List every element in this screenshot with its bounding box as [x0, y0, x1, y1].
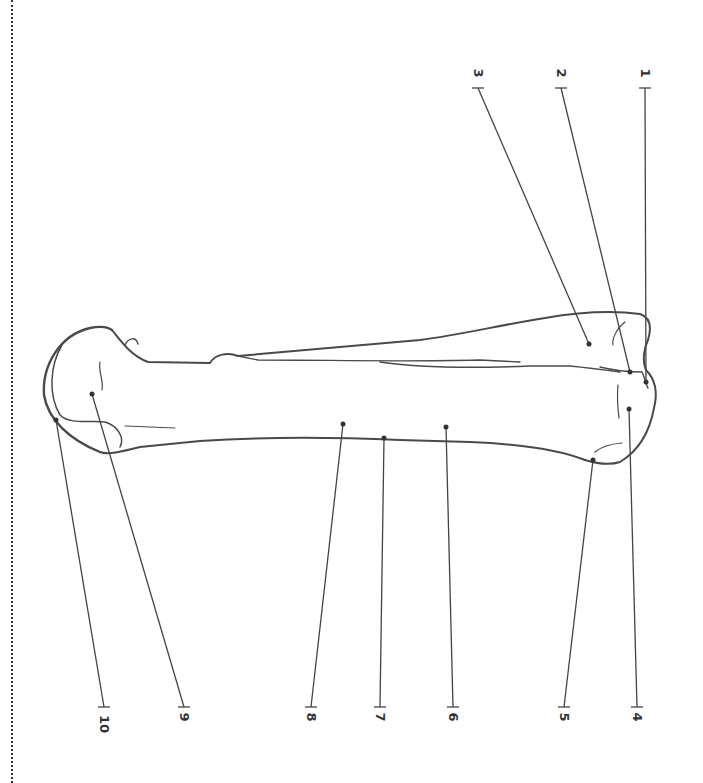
distal-arc-bottom [595, 443, 622, 452]
bone-bottom-edge [100, 438, 585, 460]
leader-point-7 [382, 436, 387, 441]
leader-line-4 [629, 409, 637, 707]
leader-point-8 [341, 422, 346, 427]
worksheet-page: 1 2 3 4 5 6 7 8 9 10 [0, 0, 703, 783]
leader-point-10 [54, 418, 59, 423]
bone-outline [44, 312, 656, 464]
shaft-ridge [380, 362, 620, 372]
leader-lines [54, 88, 652, 707]
leader-line-1 [645, 88, 646, 382]
leader-line-6 [446, 427, 453, 707]
label-1: 1 [638, 68, 653, 77]
leader-line-3 [478, 88, 589, 344]
label-8: 8 [304, 712, 319, 721]
leader-point-5 [591, 458, 596, 463]
shaft-inner-line [238, 356, 520, 362]
leader-point-2 [628, 370, 633, 375]
leader-point-9 [90, 392, 95, 397]
leader-line-7 [380, 438, 384, 707]
label-9: 9 [177, 712, 192, 721]
label-5: 5 [557, 712, 572, 721]
leader-line-9 [92, 394, 184, 707]
leader-point-6 [444, 425, 449, 430]
distal-arc-lower [618, 385, 619, 418]
label-2: 2 [554, 68, 569, 77]
label-6: 6 [446, 712, 461, 721]
bone-head-inner [52, 345, 122, 447]
leader-point-4 [627, 407, 632, 412]
number-labels: 1 2 3 4 5 6 7 8 9 10 [97, 68, 653, 733]
label-4: 4 [630, 712, 645, 721]
bone-top-edge [112, 312, 650, 363]
head-fissure [100, 362, 103, 390]
leader-line-10 [56, 420, 104, 707]
label-10: 10 [97, 715, 112, 733]
label-3: 3 [471, 68, 486, 77]
shaft-faint-line [125, 426, 175, 428]
label-7: 7 [373, 712, 388, 721]
leader-line-2 [561, 88, 630, 372]
leader-point-3 [587, 342, 592, 347]
leader-line-5 [564, 460, 593, 707]
trochanter-bump [125, 339, 138, 345]
leader-point-1 [644, 380, 649, 385]
bone-diagram: 1 2 3 4 5 6 7 8 9 10 [0, 0, 703, 783]
leader-line-8 [311, 424, 343, 707]
